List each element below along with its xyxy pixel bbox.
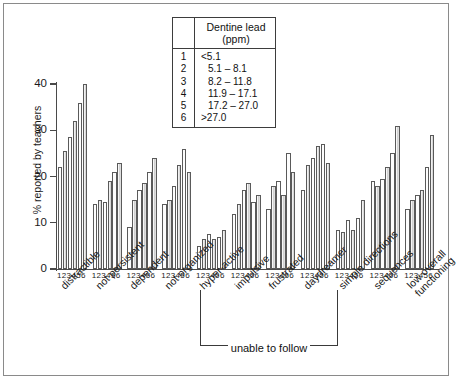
bar [316,146,320,269]
legend-title: Dentine lead (ppm) [173,18,275,49]
bracket-label-wrap: unable to follow [200,338,338,356]
legend-rows: 1<5.125.1 – 8.138.2 – 11.8411.9 – 17.151… [173,49,275,127]
bar [321,144,325,269]
y-tick-label: 20 [7,171,47,183]
legend-row: 25.1 – 8.1 [173,63,275,75]
bar [78,103,82,270]
bar [182,149,186,269]
bar [271,186,275,269]
legend-row-range: 5.1 – 8.1 [194,63,247,75]
legend-row-index: 1 [173,51,194,63]
legend-row: 411.9 – 17.1 [173,88,275,100]
y-tick-label: 0 [7,263,47,275]
y-axis-ticks: 010203040 [4,4,56,379]
bar [58,167,62,269]
legend-row-range: <5.1 [194,51,221,63]
bar [286,153,290,269]
bar [430,135,434,269]
bar [137,190,141,269]
legend-row: 517.2 – 27.0 [173,100,275,112]
bar [395,126,399,269]
legend-row-index: 3 [173,76,194,88]
bar [108,181,112,269]
bar [177,165,181,269]
bar [147,172,151,269]
legend-box: Dentine lead (ppm) 1<5.125.1 – 8.138.2 –… [172,17,276,128]
bar-group [336,84,366,269]
bar [68,137,72,269]
bar [311,158,315,269]
legend-row-range: 8.2 – 11.8 [194,76,252,88]
bar [112,172,116,269]
bracket-label: unable to follow [228,342,310,354]
bar [420,190,424,269]
legend-row: 38.2 – 11.8 [173,76,275,88]
bar-group [58,84,88,269]
bar [242,190,246,269]
legend-row-index: 4 [173,88,194,100]
bar-group [405,84,435,269]
legend-row-index: 6 [173,112,194,124]
chart-frame: % reported by teachers 010203040 Dentine… [3,3,449,376]
bar [425,167,429,269]
y-tick-label: 30 [7,124,47,136]
y-tick-label: 10 [7,217,47,229]
legend-row-index: 2 [173,63,194,75]
bar [281,195,285,269]
legend-row-range: 11.9 – 17.1 [194,88,257,100]
legend-row: 6>27.0 [173,112,275,124]
legend-row-range: 17.2 – 27.0 [194,100,258,112]
legend-row-index: 5 [173,100,194,112]
bar [415,195,419,269]
legend-row: 1<5.1 [173,51,275,63]
y-tick-label: 40 [7,78,47,90]
bar [103,202,107,269]
bar [73,121,77,269]
bar [172,186,176,269]
bar [63,151,67,269]
bar [246,183,250,269]
bar-group [301,84,331,269]
legend-title-line1: Dentine lead [207,21,266,33]
bar-group [93,84,123,269]
bar [385,167,389,269]
bar [346,220,350,269]
bar [83,84,87,269]
legend-title-line2: (ppm) [199,33,273,45]
bar [380,179,384,269]
bar [276,181,280,269]
bar [142,183,146,269]
bar [306,165,310,269]
legend-row-range: >27.0 [194,112,226,124]
bar [390,153,394,269]
bar-group [127,84,157,269]
